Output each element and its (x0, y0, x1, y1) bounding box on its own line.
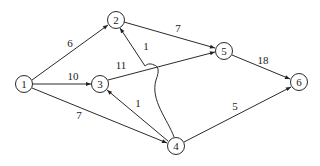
node-5-label: 5 (221, 45, 227, 57)
node-1: 1 (16, 76, 33, 93)
node-2: 2 (108, 12, 125, 29)
edge-4-6 (184, 87, 291, 142)
node-4: 4 (168, 138, 185, 155)
node-6: 6 (291, 74, 308, 91)
edge-1-4 (32, 88, 167, 143)
edge-weight-3-5: 11 (116, 59, 127, 71)
edge-weight-5-6: 18 (258, 54, 270, 66)
edge-2-5 (124, 22, 215, 48)
edge-weight-4-6: 5 (232, 100, 238, 112)
edge-weight-4-3: 1 (135, 97, 141, 109)
edge-labels: 6 10 7 7 11 1 1 18 5 (67, 22, 269, 121)
edge-weight-4-2: 1 (143, 40, 149, 52)
node-6-label: 6 (296, 76, 302, 88)
edge-weight-1-3: 10 (68, 70, 80, 82)
network-diagram: 6 10 7 7 11 1 1 18 5 1 2 3 4 5 (0, 0, 320, 166)
node-5: 5 (216, 43, 233, 60)
node-1-label: 1 (21, 78, 27, 90)
node-2-label: 2 (113, 14, 119, 26)
edge-weight-2-5: 7 (175, 22, 181, 34)
node-4-label: 4 (173, 140, 179, 152)
edge-weight-1-2: 6 (67, 37, 73, 49)
node-3-label: 3 (97, 78, 103, 90)
edge-weight-1-4: 7 (76, 109, 82, 121)
node-3: 3 (92, 76, 109, 93)
